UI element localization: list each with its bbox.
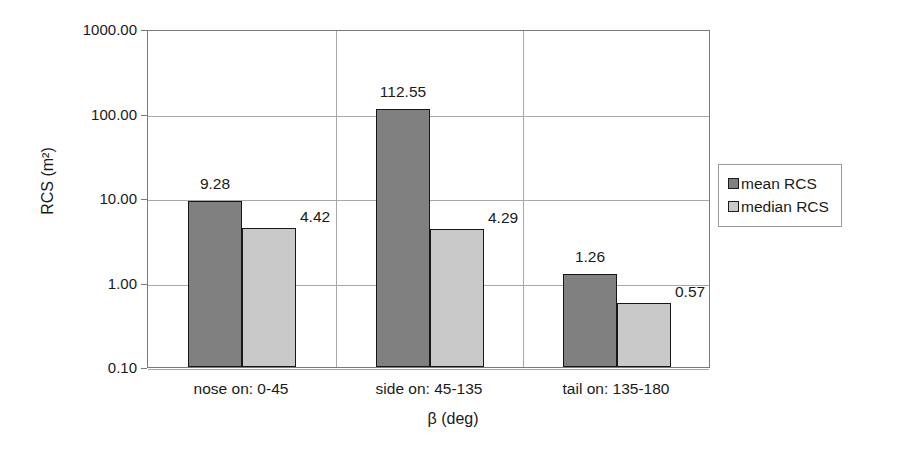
legend: mean RCS median RCS — [718, 164, 842, 227]
data-label-median-1: 4.29 — [488, 210, 518, 226]
data-label-mean-2: 1.26 — [559, 249, 621, 265]
legend-label-mean: mean RCS — [741, 176, 817, 192]
bar-mean-0[interactable] — [188, 201, 242, 367]
y-axis-tick-label: 10.00 — [51, 191, 137, 206]
category-separator — [523, 31, 524, 367]
legend-swatch-icon-median — [728, 201, 739, 212]
bar-median-0[interactable] — [242, 228, 296, 367]
legend-swatch-icon-mean — [728, 178, 739, 189]
x-axis-tick-label: nose on: 0-45 — [147, 380, 335, 397]
x-axis-title: β (deg) — [0, 410, 906, 428]
y-axis-tick-label: 1.00 — [51, 276, 137, 291]
y-axis-tick-label: 100.00 — [51, 107, 137, 122]
y-axis-tick-mark — [141, 368, 147, 369]
bar-median-1[interactable] — [430, 229, 484, 367]
category-separator — [336, 31, 337, 367]
bar-mean-1[interactable] — [376, 109, 430, 367]
x-axis-tick-label: side on: 45-135 — [335, 380, 523, 397]
data-label-median-0: 4.42 — [300, 209, 330, 225]
x-axis-tick-label: tail on: 135-180 — [522, 380, 710, 397]
legend-item-mean-rcs[interactable]: mean RCS — [728, 172, 835, 195]
bar-mean-2[interactable] — [563, 274, 617, 367]
data-label-median-2: 0.57 — [675, 284, 705, 300]
legend-item-median-rcs[interactable]: median RCS — [728, 195, 835, 218]
y-axis-title: RCS (m²) — [39, 111, 57, 251]
plot-area — [147, 30, 710, 368]
y-axis-tick-label: 1000.00 — [51, 22, 137, 37]
legend-label-median: median RCS — [741, 199, 829, 215]
y-axis-tick-label: 0.10 — [51, 360, 137, 375]
bar-median-2[interactable] — [617, 303, 671, 367]
data-label-mean-1: 112.55 — [372, 84, 434, 100]
rcs-bar-chart: RCS (m²) 1000.00100.0010.001.000.10 9.28… — [0, 0, 906, 453]
gridline — [148, 369, 709, 370]
data-label-mean-0: 9.28 — [184, 176, 246, 192]
